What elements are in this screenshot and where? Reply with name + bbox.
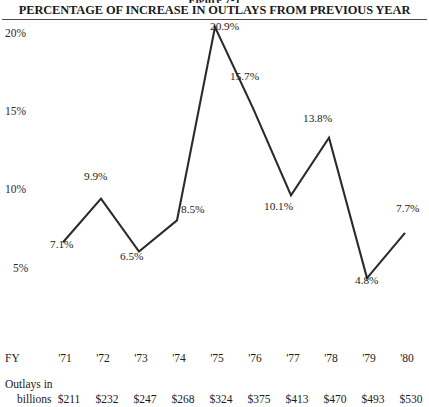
figure-title: PERCENTAGE OF INCREASE IN OUTLAYS FROM P… (0, 3, 429, 18)
y-axis-tick-20: 20% (5, 27, 26, 39)
fy-cell-76: '76 (242, 352, 268, 364)
data-label-80: 7.7% (396, 202, 420, 214)
outlay-cell-74: $268 (166, 393, 200, 405)
fy-cell-74: '74 (166, 352, 192, 364)
data-label-73: 6.5% (120, 250, 144, 262)
figure-container: Figure 7-1 PERCENTAGE OF INCREASE IN OUT… (0, 0, 429, 407)
fy-cell-73: '73 (128, 352, 154, 364)
outlays-label-bottom: billions (17, 393, 52, 405)
outlay-cell-76: $375 (242, 393, 276, 405)
fy-cell-75: '75 (204, 352, 230, 364)
outlay-cell-75: $324 (204, 393, 238, 405)
fy-cell-72: '72 (90, 352, 116, 364)
outlay-cell-78: $470 (318, 393, 352, 405)
fy-cell-71: '71 (52, 352, 78, 364)
data-label-75: 20.9% (210, 20, 239, 32)
fy-cell-79: '79 (356, 352, 382, 364)
y-axis-tick-15: 15% (5, 105, 26, 117)
y-axis-tick-10: 10% (5, 183, 26, 195)
data-label-76: 15.7% (230, 70, 259, 82)
data-label-79: 4.8% (355, 274, 379, 286)
data-label-78: 13.8% (303, 112, 332, 124)
fy-cell-80: '80 (394, 352, 420, 364)
outlay-cell-80: $530 (394, 393, 428, 405)
data-label-74: 8.5% (181, 203, 205, 215)
outlay-cell-73: $247 (128, 393, 162, 405)
data-label-71: 7.1% (50, 238, 74, 250)
chart-plot-area: 20% 15% 10% 5% 7.1% 9.9% 6.5% 8.5% 20.9%… (0, 18, 429, 330)
fy-cell-77: '77 (280, 352, 306, 364)
outlay-cell-71: $211 (52, 393, 86, 405)
outlays-label-top: Outlays in (5, 378, 53, 390)
fy-cell-78: '78 (318, 352, 344, 364)
fy-row-label: FY (5, 352, 20, 364)
outlay-cell-77: $413 (280, 393, 314, 405)
data-table: FY Outlays in billions '71 '72 '73 '74 '… (0, 330, 429, 407)
outlay-cell-72: $232 (90, 393, 124, 405)
data-label-72: 9.9% (84, 170, 108, 182)
outlays-increase-line (63, 27, 405, 278)
data-label-77: 10.1% (264, 200, 293, 212)
y-axis-tick-5: 5% (13, 262, 28, 274)
outlay-cell-79: $493 (356, 393, 390, 405)
